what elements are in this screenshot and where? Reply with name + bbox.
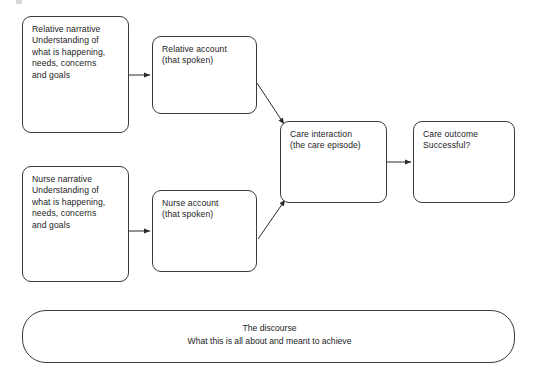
edge-relative-account-to-care-interaction <box>257 83 284 124</box>
node-care-outcome-label: Care outcome Successful? <box>423 129 506 152</box>
node-care-outcome[interactable]: Care outcome Successful? <box>413 121 515 203</box>
node-relative-narrative-label: Relative narrative Understanding of what… <box>32 24 120 81</box>
node-nurse-account-label: Nurse account (that spoken) <box>162 198 248 221</box>
edge-nurse-account-to-care-interaction <box>258 200 285 239</box>
node-nurse-narrative[interactable]: Nurse narrative Understanding of what is… <box>22 166 129 282</box>
discourse-title: The discourse <box>23 323 516 334</box>
node-care-interaction[interactable]: Care interaction (the care episode) <box>280 121 387 203</box>
discourse-subtitle: What this is all about and meant to achi… <box>23 336 516 347</box>
node-relative-account-label: Relative account (that spoken) <box>162 44 248 67</box>
node-care-interaction-label: Care interaction (the care episode) <box>290 129 378 152</box>
top-edge-artifact <box>16 0 22 4</box>
node-discourse[interactable]: The discourse What this is all about and… <box>22 310 515 363</box>
node-relative-account[interactable]: Relative account (that spoken) <box>152 36 257 114</box>
node-nurse-narrative-label: Nurse narrative Understanding of what is… <box>32 174 120 231</box>
node-relative-narrative[interactable]: Relative narrative Understanding of what… <box>22 16 129 133</box>
diagram-canvas: Relative narrative Understanding of what… <box>0 0 535 379</box>
node-nurse-account[interactable]: Nurse account (that spoken) <box>152 190 257 272</box>
